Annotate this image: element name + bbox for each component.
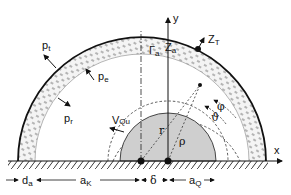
- enclosure-diagram: y x pt pe pr Γa Za ZT VQu r ρ φ ϑ da aK …: [0, 0, 291, 195]
- vqu-arrow: [110, 128, 124, 132]
- zt-label: ZT: [208, 33, 220, 47]
- ak-label: aK: [80, 174, 92, 188]
- r-label: r: [159, 124, 165, 137]
- theta-label: ϑ: [211, 111, 219, 124]
- pe-arrow: [86, 69, 94, 80]
- delta-label: δ: [150, 174, 157, 187]
- pt-arrow: [44, 55, 56, 68]
- source-center-dot: [138, 158, 145, 165]
- aq-label: aQ: [189, 174, 201, 188]
- x-axis-label: x: [274, 144, 280, 156]
- pt-label: pt: [42, 39, 51, 53]
- vqu-label: VQu: [112, 114, 130, 126]
- pe-label: pe: [98, 70, 109, 84]
- pr-arrow: [58, 98, 70, 106]
- rho-label: ρ: [179, 135, 185, 148]
- da-label: da: [22, 174, 33, 188]
- zt-arrow: [198, 38, 204, 49]
- origin-dot: [165, 158, 172, 165]
- observation-point: [198, 83, 202, 87]
- y-axis-label: y: [173, 12, 179, 24]
- pr-label: pr: [64, 112, 73, 126]
